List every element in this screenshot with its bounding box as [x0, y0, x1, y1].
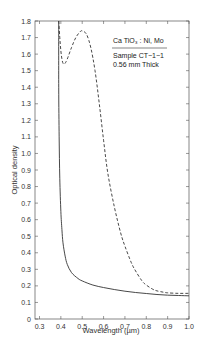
y-tick-label: 1.7	[21, 34, 31, 41]
y-axis-ticks: 00.10.20.30.40.50.60.70.80.91.01.11.21.3…	[21, 18, 189, 323]
optical-density-chart: 0.30.40.50.60.70.80.91.0 00.10.20.30.40.…	[0, 0, 197, 361]
axes	[35, 21, 189, 319]
x-tick-label: 0.4	[56, 323, 66, 330]
y-tick-label: 1.5	[21, 67, 31, 74]
y-tick-label: 0.9	[21, 167, 31, 174]
x-axis-label: Wavelength (µm)	[83, 326, 140, 335]
x-tick-label: 1.0	[184, 323, 194, 330]
y-tick-label: 1.4	[21, 84, 31, 91]
y-tick-label: 0.5	[21, 233, 31, 240]
y-axis-label: Optical density	[10, 145, 19, 194]
y-tick-label: 1.2	[21, 117, 31, 124]
annotation-thickness: 0.56 mm Thick	[113, 61, 159, 68]
annotation-box: Ca TiO₃ : Ni, Mo Sample CT−1−1 0.56 mm T…	[112, 37, 167, 68]
y-tick-label: 0.1	[21, 299, 31, 306]
y-tick-label: 1.0	[21, 150, 31, 157]
x-tick-label: 0.9	[163, 323, 173, 330]
plot-frame	[35, 21, 189, 319]
y-tick-label: 1.3	[21, 100, 31, 107]
y-tick-label: 0.7	[21, 200, 31, 207]
y-tick-label: 1.6	[21, 51, 31, 58]
y-tick-label: 0.8	[21, 183, 31, 190]
y-tick-label: 1.1	[21, 133, 31, 140]
y-tick-label: 1.8	[21, 18, 31, 25]
y-tick-label: 0.6	[21, 216, 31, 223]
y-tick-label: 0	[27, 316, 31, 323]
annotation-sample: Sample CT−1−1	[113, 52, 164, 60]
annotation-compound: Ca TiO₃ : Ni, Mo	[113, 37, 164, 44]
y-tick-label: 0.4	[21, 249, 31, 256]
x-tick-label: 0.3	[35, 323, 45, 330]
y-tick-label: 0.3	[21, 266, 31, 273]
y-tick-label: 0.2	[21, 282, 31, 289]
x-tick-label: 0.8	[141, 323, 151, 330]
